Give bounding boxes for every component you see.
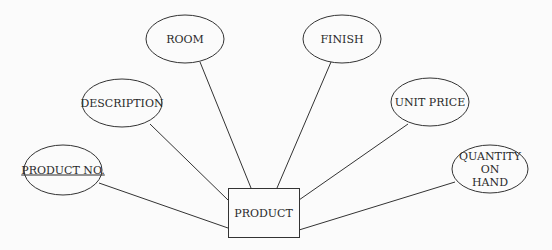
entity-label-product: PRODUCT [234,206,293,219]
connector-line-quantity-on-hand [299,182,455,230]
attribute-label-product-no: PRODUCT NO. [21,164,105,177]
connector-line-description [150,124,228,200]
connector-line-room [200,62,251,188]
connector-line-product-no [99,183,228,228]
attribute-label-finish: FINISH [320,33,363,46]
er-diagram: PRODUCT PRODUCT NO. DESCRIPTION ROOM FIN… [0,0,552,250]
attribute-label-unit-price: UNIT PRICE [395,96,466,109]
connector-line-unit-price [299,124,408,200]
attribute-label-description: DESCRIPTION [80,97,163,110]
attribute-label-quantity-on-hand: QUANTITY ON HAND [459,150,521,189]
connector-line-finish [277,62,331,188]
attribute-label-room: ROOM [166,33,204,46]
